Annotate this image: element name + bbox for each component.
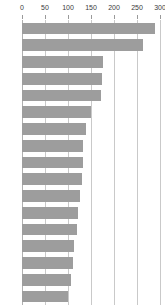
bar-row [0, 39, 165, 51]
bar-chart: 050100150200250300 [0, 0, 165, 305]
x-axis-tick-mark [114, 15, 115, 19]
bar [22, 73, 102, 85]
x-axis-tick-labels: 050100150200250300 [0, 0, 165, 16]
bar [22, 23, 155, 35]
bar-row [0, 90, 165, 102]
x-axis-tick-label: 100 [62, 3, 74, 12]
bar [22, 39, 143, 51]
bar-row [0, 123, 165, 135]
bar-row [0, 274, 165, 286]
bar-row [0, 56, 165, 68]
bar-row [0, 173, 165, 185]
bar-row [0, 240, 165, 252]
x-axis-tick-mark [160, 15, 161, 19]
bar-row [0, 257, 165, 269]
x-axis-tick-label: 300 [154, 3, 165, 12]
bar [22, 224, 77, 236]
bar-row [0, 106, 165, 118]
x-axis-tick-mark [137, 15, 138, 19]
bar-row [0, 140, 165, 152]
bar [22, 140, 83, 152]
x-axis-tick-label: 200 [108, 3, 120, 12]
bar-row [0, 291, 165, 303]
bar [22, 207, 78, 219]
bar [22, 123, 86, 135]
bar [22, 240, 74, 252]
bar [22, 106, 91, 118]
plot-area [0, 20, 165, 305]
bar [22, 56, 103, 68]
x-axis-tick-label: 50 [41, 3, 49, 12]
bar-series [0, 20, 165, 305]
bar-row [0, 190, 165, 202]
bar [22, 157, 83, 169]
bar-row [0, 207, 165, 219]
x-axis-tick-mark [22, 15, 23, 19]
x-axis-tick-mark [45, 15, 46, 19]
bar [22, 291, 68, 303]
bar-row [0, 157, 165, 169]
x-axis-tick-mark [91, 15, 92, 19]
bar-row [0, 23, 165, 35]
bar-row [0, 224, 165, 236]
bar [22, 190, 80, 202]
bar-row [0, 73, 165, 85]
x-axis-tick-label: 250 [131, 3, 143, 12]
bar [22, 90, 101, 102]
x-axis-tick-label: 150 [85, 3, 97, 12]
x-axis-tick-mark [68, 15, 69, 19]
bar [22, 274, 71, 286]
bar [22, 257, 73, 269]
x-axis-tick-label: 0 [20, 3, 24, 12]
bar [22, 173, 82, 185]
